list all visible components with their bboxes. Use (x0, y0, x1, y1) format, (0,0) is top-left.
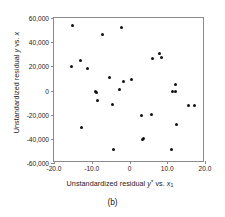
data-point (151, 57, 154, 60)
data-point (112, 148, 115, 151)
data-point (96, 99, 99, 102)
plot-area: 60,00040,00020,0000-20,000-40,000-60,000… (53, 17, 204, 162)
y-tick-mark (51, 42, 54, 43)
y-tick-mark (51, 115, 54, 116)
scatter-plot-figure: Unstandardized residual y vs. x 60,00040… (0, 0, 225, 217)
data-point (174, 90, 177, 93)
y-tick-mark (51, 66, 54, 67)
x-tick-mark (167, 161, 168, 164)
data-point (101, 33, 104, 36)
data-point (111, 103, 114, 106)
x-tick-mark (92, 161, 93, 164)
y-tick-label: -20,000 (27, 111, 49, 118)
data-point (71, 24, 74, 27)
data-point (174, 83, 177, 86)
x-tick-label: 10.0 (161, 165, 174, 172)
data-point (140, 114, 143, 117)
y-tick-label: 0 (45, 87, 49, 94)
y-tick-label: 60,000 (29, 15, 49, 22)
data-point (160, 56, 163, 59)
data-point (108, 76, 111, 79)
y-tick-label: 20,000 (29, 63, 49, 70)
data-point (95, 91, 98, 94)
y-tick-label: 40,000 (29, 39, 49, 46)
data-point (80, 126, 83, 129)
data-point (120, 26, 123, 29)
figure-caption: (b) (0, 197, 225, 207)
data-point (175, 123, 178, 126)
x-tick-mark (130, 161, 131, 164)
x-tick-label: -10.0 (84, 165, 99, 172)
data-point (70, 65, 73, 68)
data-point (142, 137, 145, 140)
x-axis-title: Unstandardized residual y* vs. x1 (30, 179, 210, 188)
data-point (118, 88, 121, 91)
y-axis-title: Unstandardized residual y vs. x (12, 18, 21, 148)
y-tick-mark (51, 91, 54, 92)
data-point (158, 52, 161, 55)
y-tick-mark (51, 18, 54, 19)
x-tick-mark (205, 161, 206, 164)
data-point (193, 104, 196, 107)
y-tick-label: -40,000 (27, 135, 49, 142)
data-point (130, 78, 133, 81)
x-tick-mark (54, 161, 55, 164)
data-point (150, 113, 153, 116)
data-point (187, 104, 190, 107)
x-tick-label: 20.0 (199, 165, 212, 172)
data-point (170, 148, 173, 151)
x-tick-label: 0 (128, 165, 132, 172)
x-tick-label: -20.0 (46, 165, 61, 172)
data-point (79, 59, 82, 62)
data-point (122, 80, 125, 83)
data-point (86, 67, 89, 70)
y-tick-mark (51, 139, 54, 140)
